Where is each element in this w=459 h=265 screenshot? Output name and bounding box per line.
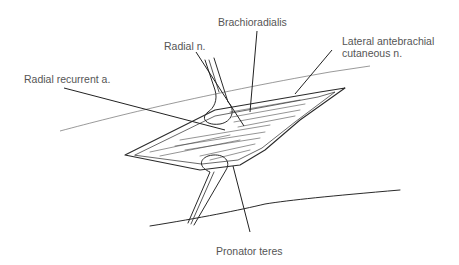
forearm-lower-contour <box>150 190 400 226</box>
upper-retractor <box>204 58 232 124</box>
label-radial-n: Radial n. <box>164 40 205 52</box>
anatomical-figure: Brachioradialis Radial n. Lateral antebr… <box>0 0 459 265</box>
incision-outline <box>125 88 345 170</box>
label-lateral-antebrachial-line1: Lateral antebrachial <box>342 35 434 47</box>
incision-inner-rim <box>135 92 335 164</box>
leader-brachioradialis <box>250 31 257 112</box>
leader-pronator-teres <box>233 166 250 232</box>
muscle-fibers <box>150 100 305 160</box>
label-pronator-teres: Pronator teres <box>216 245 283 257</box>
label-lateral-antebrachial-line2: cutaneous n. <box>342 47 402 59</box>
label-brachioradialis: Brachioradialis <box>218 16 287 28</box>
lower-retractor <box>188 155 228 225</box>
label-radial-recurrent: Radial recurrent a. <box>24 73 110 85</box>
leader-lateral-antebrachial <box>295 50 332 94</box>
